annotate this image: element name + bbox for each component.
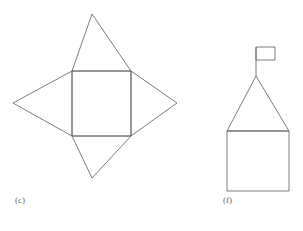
figure-c-label: (c): [15, 196, 25, 205]
figure-f-group: [227, 47, 289, 191]
figure-c-left-triangle: [13, 71, 72, 136]
figure-f-label: (f): [223, 196, 232, 205]
figures-canvas: [0, 0, 303, 231]
figure-f-roof-triangle: [227, 76, 289, 131]
figure-c-group: [13, 14, 177, 178]
figure-f-base-square: [227, 131, 289, 191]
figure-c-top-triangle: [72, 14, 131, 71]
figure-c-central-square: [72, 71, 131, 136]
figure-c-right-triangle: [131, 71, 177, 136]
figure-c-bottom-triangle: [72, 136, 131, 178]
figure-f-flag-banner: [256, 47, 275, 60]
